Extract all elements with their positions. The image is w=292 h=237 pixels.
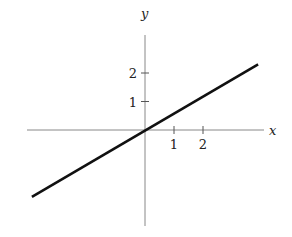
- axis-ticks: 1212: [129, 66, 207, 152]
- line-graph: 1212 x y: [0, 0, 292, 237]
- y-tick-label: 1: [129, 95, 137, 110]
- y-tick-label: 2: [129, 66, 137, 81]
- x-tick-label: 2: [199, 137, 207, 152]
- x-axis-label: x: [269, 123, 277, 138]
- y-axis-label: y: [140, 6, 149, 21]
- x-tick-label: 1: [170, 137, 178, 152]
